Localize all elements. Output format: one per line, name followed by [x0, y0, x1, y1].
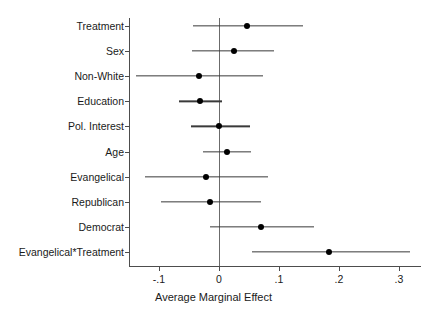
- category-axis-labels: TreatmentSexNon-WhiteEducationPol. Inter…: [0, 0, 124, 319]
- estimate-point: [203, 174, 209, 180]
- zero-reference-line: [219, 18, 220, 266]
- category-label: Non-White: [74, 71, 124, 82]
- x-axis-tick: [339, 267, 340, 271]
- x-axis-title: Average Marginal Effect: [0, 291, 427, 303]
- x-axis-tick-label: .2: [335, 273, 344, 285]
- category-label: Republican: [71, 196, 124, 207]
- estimate-point: [244, 23, 250, 29]
- estimate-point: [258, 224, 264, 230]
- y-axis-tick: [125, 51, 129, 52]
- estimate-point: [196, 73, 202, 79]
- x-axis-tick: [159, 267, 160, 271]
- category-label: Democrat: [78, 221, 124, 232]
- x-axis-line: [129, 266, 421, 267]
- category-label: Age: [105, 146, 124, 157]
- y-axis-tick: [125, 227, 129, 228]
- category-label: Evangelical: [70, 171, 124, 182]
- estimate-point: [326, 249, 332, 255]
- category-label: Education: [77, 96, 124, 107]
- y-axis-tick: [125, 177, 129, 178]
- y-axis-tick: [125, 202, 129, 203]
- x-axis-tick-label: 0: [216, 273, 222, 285]
- category-label: Sex: [106, 46, 124, 57]
- estimate-point: [207, 199, 213, 205]
- x-axis-tick-label: .3: [395, 273, 404, 285]
- category-label: Treatment: [77, 21, 124, 32]
- estimate-point: [231, 48, 237, 54]
- y-axis-tick: [125, 152, 129, 153]
- y-axis-tick: [125, 26, 129, 27]
- y-axis-tick: [125, 126, 129, 127]
- x-axis-tick: [399, 267, 400, 271]
- x-axis-tick: [279, 267, 280, 271]
- x-axis-tick-label: -.1: [153, 273, 165, 285]
- y-axis-tick: [125, 101, 129, 102]
- estimate-point: [216, 123, 222, 129]
- x-axis-tick: [219, 267, 220, 271]
- y-axis-line: [129, 18, 130, 266]
- coefficient-plot: TreatmentSexNon-WhiteEducationPol. Inter…: [0, 0, 427, 319]
- estimate-point: [197, 98, 203, 104]
- x-axis-tick-label: .1: [275, 273, 284, 285]
- category-label: Evangelical*Treatment: [19, 246, 124, 257]
- y-axis-tick: [125, 76, 129, 77]
- estimate-point: [224, 149, 230, 155]
- category-label: Pol. Interest: [68, 121, 124, 132]
- y-axis-tick: [125, 252, 129, 253]
